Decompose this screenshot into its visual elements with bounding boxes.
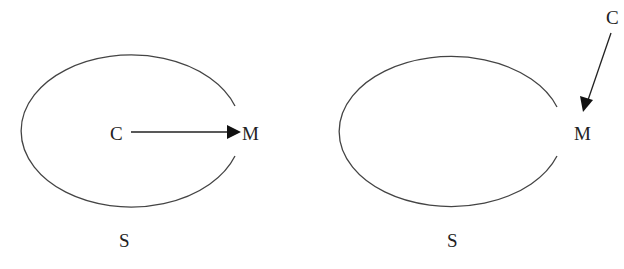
source-label-left: C [110,123,123,144]
target-label-left: M [242,123,259,144]
boundary-label-left: S [119,230,130,251]
diagram-canvas: C M S C M S [0,0,624,269]
boundary-label-right: S [447,230,458,251]
system-boundary-arc-left [21,55,235,207]
target-label-right: M [574,123,591,144]
source-label-right: C [606,7,619,28]
arrowhead-left-icon [227,125,241,139]
panel-right: C M S [339,7,619,251]
system-boundary-arc-right [339,57,557,207]
arrow-line-right [588,33,611,100]
arrowhead-right-icon [580,96,593,112]
panel-left: C M S [21,55,259,251]
